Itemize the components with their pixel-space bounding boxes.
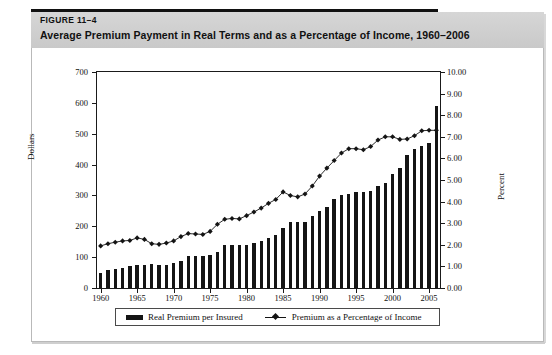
y-tick-label-left: 400 — [48, 160, 88, 170]
y-tick-left — [92, 257, 96, 258]
line-marker — [397, 137, 402, 142]
line-marker — [295, 194, 300, 199]
y-tick-right — [441, 115, 445, 116]
x-tick-label: 1970 — [154, 293, 194, 303]
y-tick-label-left: 100 — [48, 252, 88, 262]
frame-shadow-bottom — [32, 342, 545, 344]
line-marker — [149, 241, 154, 246]
x-tick-label: 2005 — [409, 293, 449, 303]
y-tick-left — [92, 226, 96, 227]
x-tick-label: 1990 — [300, 293, 340, 303]
y-tick-left — [92, 165, 96, 166]
line-marker — [229, 216, 234, 221]
line-marker — [164, 241, 169, 246]
y-tick-label-right: 6.00 — [447, 153, 491, 163]
line-marker — [237, 216, 242, 221]
y-tick-left — [92, 103, 96, 104]
y-tick-label-left: 300 — [48, 190, 88, 200]
line-diamond-swatch-icon — [265, 313, 286, 322]
line-marker — [135, 235, 140, 240]
y-tick-right — [441, 245, 445, 246]
y-tick-left — [92, 72, 96, 73]
y-tick-label-right: 4.00 — [447, 197, 491, 207]
x-tick-label: 1975 — [190, 293, 230, 303]
y-tick-left — [92, 288, 96, 289]
y-tick-label-left: 600 — [48, 98, 88, 108]
line-marker — [113, 240, 118, 245]
line-marker — [288, 193, 293, 198]
legend-label-line: Premium as a Percentage of Income — [292, 312, 422, 322]
y-tick-right — [441, 288, 445, 289]
frame-shadow-right — [544, 14, 546, 343]
line-marker — [120, 238, 125, 243]
y-axis-title-right: Percent — [496, 173, 506, 200]
y-tick-label-right: 5.00 — [447, 175, 491, 185]
line-marker — [266, 201, 271, 206]
line-marker — [142, 237, 147, 242]
y-tick-right — [441, 72, 445, 73]
y-tick-left — [92, 134, 96, 135]
y-tick-right — [441, 137, 445, 138]
plot-area — [97, 72, 440, 288]
line-marker — [186, 231, 191, 236]
legend-label-bars: Real Premium per Insured — [148, 312, 243, 322]
line-marker — [405, 136, 410, 141]
y-tick-label-right: 10.00 — [447, 67, 491, 77]
y-tick-label-right: 3.00 — [447, 218, 491, 228]
line-marker — [434, 128, 439, 133]
line-marker — [200, 232, 205, 237]
bar-swatch-icon — [126, 315, 143, 320]
line-series-layer — [97, 72, 440, 288]
line-marker — [390, 134, 395, 139]
x-tick-label: 1960 — [81, 293, 121, 303]
y-axis-title-left: Dollars — [26, 134, 36, 161]
line-marker — [361, 147, 366, 152]
line-marker — [427, 128, 432, 133]
legend-item-bars: Real Premium per Insured — [116, 312, 243, 322]
line-marker — [171, 238, 176, 243]
y-tick-right — [441, 266, 445, 267]
line-marker — [222, 217, 227, 222]
line-marker — [412, 133, 417, 138]
y-tick-label-left: 200 — [48, 221, 88, 231]
line-marker — [354, 146, 359, 151]
line-path — [101, 130, 437, 246]
chart-legend: Real Premium per Insured Premium as a Pe… — [115, 308, 440, 326]
y-tick-left — [92, 195, 96, 196]
x-tick-label: 1985 — [263, 293, 303, 303]
y-tick-label-right: 2.00 — [447, 240, 491, 250]
line-marker — [259, 206, 264, 211]
y-tick-right — [441, 180, 445, 181]
legend-item-line: Premium as a Percentage of Income — [243, 312, 422, 322]
x-tick-label: 1995 — [336, 293, 376, 303]
line-marker — [419, 128, 424, 133]
figure-number: FIGURE 11–4 — [40, 15, 97, 25]
figure-container: FIGURE 11–4 Average Premium Payment in R… — [0, 0, 552, 355]
y-tick-label-left: 0 — [48, 283, 88, 293]
plot-axis-bottom — [96, 288, 441, 289]
y-tick-label-left: 500 — [48, 129, 88, 139]
y-tick-label-right: 7.00 — [447, 132, 491, 142]
y-tick-label-right: 9.00 — [447, 89, 491, 99]
y-tick-label-left: 700 — [48, 67, 88, 77]
line-marker — [251, 209, 256, 214]
y-tick-label-right: 1.00 — [447, 261, 491, 271]
x-tick-label: 2000 — [373, 293, 413, 303]
y-tick-right — [441, 94, 445, 95]
line-marker — [105, 241, 110, 246]
line-marker — [98, 243, 103, 248]
y-tick-right — [441, 158, 445, 159]
y-tick-right — [441, 202, 445, 203]
figure-title: Average Premium Payment in Real Terms an… — [40, 29, 470, 41]
line-marker — [383, 134, 388, 139]
y-tick-right — [441, 223, 445, 224]
line-marker — [244, 213, 249, 218]
line-marker — [193, 231, 198, 236]
y-tick-label-right: 0.00 — [447, 283, 491, 293]
line-marker — [178, 234, 183, 239]
line-marker — [346, 146, 351, 151]
line-marker — [127, 238, 132, 243]
line-marker — [156, 242, 161, 247]
x-tick-label: 1980 — [227, 293, 267, 303]
x-tick-label: 1965 — [117, 293, 157, 303]
